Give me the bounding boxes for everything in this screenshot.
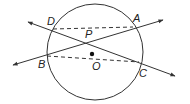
label-O: O: [92, 60, 101, 72]
circle: [47, 4, 143, 100]
label-P: P: [85, 28, 93, 40]
center-point-O: [90, 52, 94, 56]
label-C: C: [139, 67, 147, 79]
label-B: B: [38, 58, 45, 70]
label-D: D: [47, 15, 55, 27]
chord-DA: [53, 27, 133, 29]
label-A: A: [132, 12, 140, 24]
line-BA: [13, 20, 163, 65]
geometry-diagram: D A P B O C: [0, 0, 190, 104]
